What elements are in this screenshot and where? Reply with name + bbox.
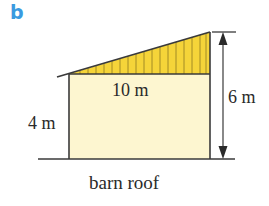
roof-triangle	[57, 30, 210, 77]
roof-width-label: 10 m	[112, 81, 149, 99]
diagram-caption: barn roof	[89, 173, 159, 192]
total-height-label: 6 m	[227, 88, 257, 106]
barn-roof-diagram: b 10 m 4 m 6 m barn roof	[0, 0, 269, 206]
wall-height-label: 4 m	[28, 114, 56, 132]
arrow-down-icon	[219, 146, 228, 159]
part-label: b	[10, 3, 24, 22]
arrow-up-icon	[219, 32, 228, 45]
